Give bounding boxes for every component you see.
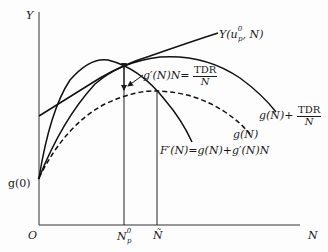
y-curve-label-sup: 0	[238, 25, 242, 33]
annotation-numerator: TDR	[193, 65, 217, 77]
annotation-label: g′(N)N= TDR N	[143, 65, 217, 87]
y-curve-label-suffix: , N)	[243, 28, 264, 41]
g-plus-tdr-denominator: N	[305, 117, 314, 128]
annotation-leader	[128, 75, 143, 86]
y-curve-label-prefix: Y(u	[219, 28, 238, 41]
g-curve	[39, 91, 250, 178]
annotation-denominator: N	[201, 77, 210, 88]
origin-label: O	[28, 230, 37, 241]
g-plus-tdr-prefix: g(N)+	[259, 109, 293, 122]
g0-point	[38, 177, 40, 179]
g-plus-tdr-numerator: TDR	[297, 105, 321, 117]
np0-label-base: N	[117, 230, 127, 243]
g-plus-tdr-fraction: TDR N	[297, 105, 321, 127]
np0-label-sup: 0	[127, 227, 131, 235]
annotation-prefix: g′(N)N=	[143, 69, 190, 82]
y-curve-label: Y(u0p, N)	[219, 28, 264, 43]
ntilde-label: Ñ	[153, 230, 163, 241]
fprime-curve-label: F′(N)=g(N)+g′(N)N	[160, 145, 269, 156]
y-axis-label: Y	[26, 10, 33, 21]
np0-label-sub: p	[127, 237, 131, 245]
np0-label: N0p	[117, 230, 132, 245]
g-curve-label: g(N)	[233, 129, 258, 140]
annotation-fraction: TDR N	[193, 65, 217, 87]
x-axis-label: N	[308, 230, 318, 241]
g0-label: g(0)	[8, 178, 31, 189]
diagram-canvas: Y N O g(0) N0p Ñ Y(u0p, N) g′(N)N= TDR N…	[0, 0, 328, 252]
g-plus-tdr-label: g(N)+ TDR N	[259, 105, 321, 127]
